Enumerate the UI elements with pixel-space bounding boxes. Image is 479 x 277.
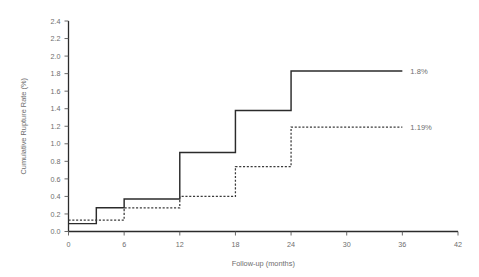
x-tick-label: 18 — [231, 240, 239, 249]
y-tick-label: 0.6 — [51, 175, 61, 184]
y-tick-label: 2.0 — [51, 52, 61, 61]
x-axis-tick-labels: 06121824303642 — [67, 240, 463, 249]
series-line-solid — [69, 71, 403, 224]
y-axis-title: Cumulative Rupture Rate (%) — [19, 78, 28, 175]
x-tick-label: 12 — [176, 240, 184, 249]
y-tick-label: 0.8 — [51, 157, 61, 166]
y-tick-label: 1.6 — [51, 87, 61, 96]
x-tick-label: 36 — [398, 240, 406, 249]
x-tick-label: 0 — [67, 240, 71, 249]
y-tick-label: 1.2 — [51, 122, 61, 131]
y-tick-label: 1.8 — [51, 69, 61, 78]
chart-container: 0.00.20.40.60.81.01.21.41.61.82.02.22.4 … — [0, 0, 479, 277]
y-tick-label: 0.4 — [51, 192, 61, 201]
y-axis-tick-labels: 0.00.20.40.60.81.01.21.41.61.82.02.22.4 — [51, 17, 61, 237]
x-tick-label: 42 — [454, 240, 462, 249]
x-tick-label: 6 — [122, 240, 126, 249]
series-end-label-solid: 1.8% — [410, 67, 428, 76]
x-tick-label: 30 — [343, 240, 351, 249]
x-tick-label: 24 — [287, 240, 295, 249]
series-end-label-dashed: 1.19% — [410, 123, 432, 132]
y-tick-label: 1.4 — [51, 104, 61, 113]
y-tick-label: 0.0 — [51, 227, 61, 236]
x-axis-title: Follow-up (months) — [232, 259, 295, 268]
y-tick-label: 1.0 — [51, 139, 61, 148]
y-tick-label: 0.2 — [51, 210, 61, 219]
cumulative-rupture-rate-chart: 0.00.20.40.60.81.01.21.41.61.82.02.22.4 … — [0, 0, 479, 277]
y-tick-label: 2.2 — [51, 34, 61, 43]
y-tick-label: 2.4 — [51, 17, 61, 26]
